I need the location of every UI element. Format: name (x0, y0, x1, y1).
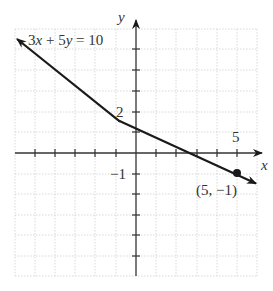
point-5-neg1 (233, 169, 241, 177)
y-axis-label: y (116, 9, 125, 25)
point-label: (5, −1) (196, 182, 237, 199)
y-tick-label-2: 2 (116, 104, 124, 120)
y-tick-label-neg1: −1 (110, 166, 126, 182)
equation-line (17, 39, 120, 122)
axes (15, 20, 262, 276)
x-tick-label-5: 5 (232, 129, 240, 145)
x-axis-label: x (260, 157, 268, 173)
equation-label: 3x + 5y = 10 (28, 32, 103, 48)
coordinate-graph: 3x + 5y = 10 y x 5 2 −1 (5, −1) (0, 0, 273, 291)
